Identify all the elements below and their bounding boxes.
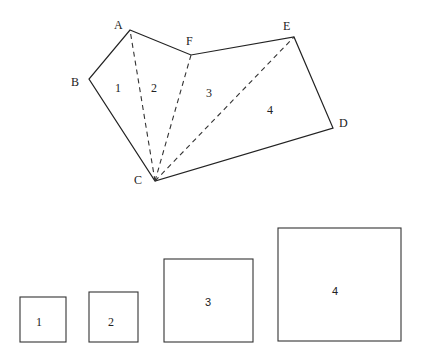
square-1 bbox=[20, 297, 66, 342]
region-label-2: 2 bbox=[151, 81, 157, 95]
square-label-3: 3 bbox=[205, 296, 211, 308]
diagonal-CF bbox=[155, 55, 191, 181]
vertex-label-E: E bbox=[283, 19, 290, 33]
square-label-1: 1 bbox=[36, 315, 42, 329]
region-label-3: 3 bbox=[206, 86, 212, 100]
vertex-label-D: D bbox=[339, 116, 348, 130]
vertex-label-B: B bbox=[71, 75, 79, 89]
diagonal-CA bbox=[130, 30, 155, 181]
vertex-label-C: C bbox=[134, 173, 142, 187]
geometry-diagram: A B C D E F 1 2 3 4 1 2 3 4 bbox=[0, 0, 423, 359]
vertex-label-F: F bbox=[186, 34, 193, 48]
square-label-2: 2 bbox=[108, 315, 114, 329]
region-label-4: 4 bbox=[267, 103, 273, 117]
square-4 bbox=[278, 228, 401, 341]
hexagon-outline bbox=[89, 30, 333, 181]
square-label-4: 4 bbox=[332, 285, 338, 297]
vertex-label-A: A bbox=[114, 18, 123, 32]
region-label-1: 1 bbox=[115, 81, 121, 95]
